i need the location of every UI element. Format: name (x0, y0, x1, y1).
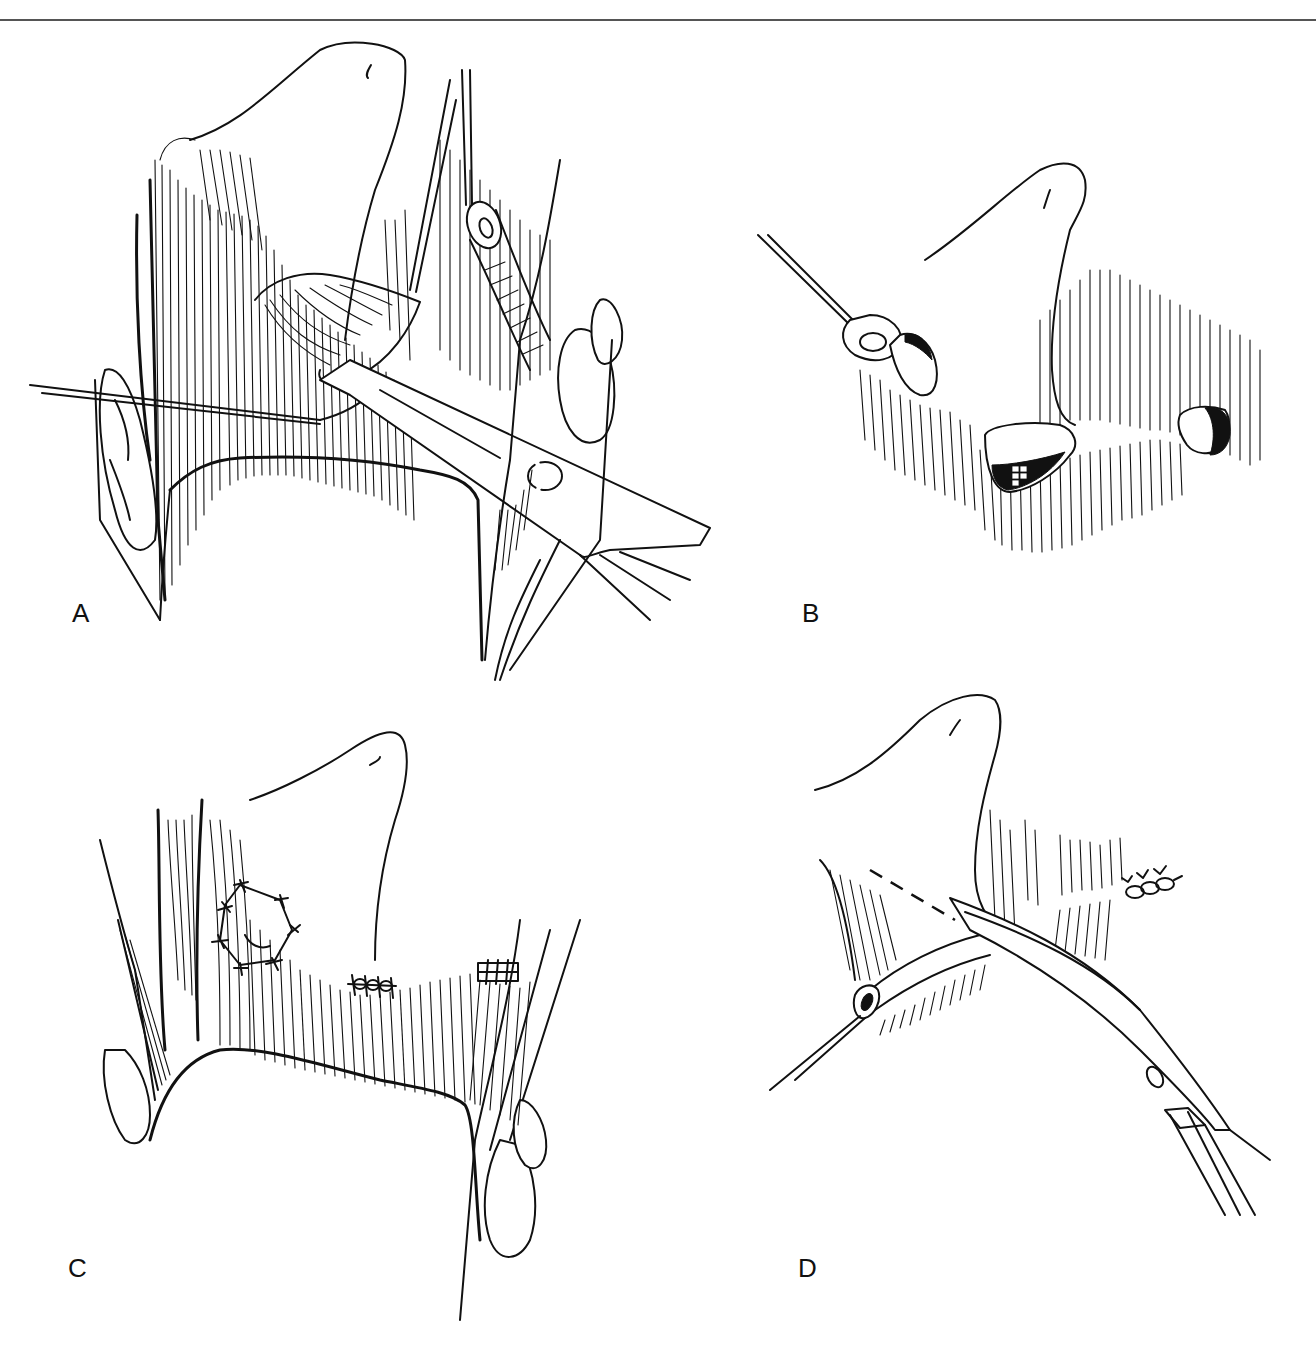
panel-d-illustration (760, 680, 1290, 1300)
panel-c: C (80, 720, 660, 1340)
panel-a-illustration (0, 40, 720, 660)
panel-label-d: D (798, 1255, 817, 1281)
panel-c-illustration (80, 720, 660, 1340)
top-rule-divider (0, 19, 1316, 21)
panel-label-c: C (68, 1255, 87, 1281)
panel-b: B (740, 120, 1300, 570)
panel-a: A (0, 40, 720, 660)
panel-label-a: A (72, 600, 89, 626)
panel-d: D (760, 680, 1290, 1300)
panel-b-illustration (740, 120, 1300, 570)
panel-label-b: B (802, 600, 819, 626)
